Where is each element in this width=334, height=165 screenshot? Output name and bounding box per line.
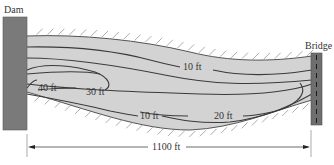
hatch-mark-bottom — [65, 105, 71, 111]
hatch-mark-top — [69, 29, 75, 35]
hatch-mark-bottom — [147, 127, 153, 133]
hatch-mark-bottom — [158, 129, 164, 135]
dam-label: Dam — [4, 4, 24, 15]
hatch-mark-top — [48, 29, 54, 35]
bridge-label: Bridge — [305, 40, 333, 51]
hatch-mark-bottom — [292, 107, 298, 113]
contour-label-40ft: 40 ft — [38, 82, 57, 93]
hatch-mark-top — [253, 53, 259, 59]
hatch-mark-top — [178, 42, 184, 48]
distance-label: 1100 ft — [152, 141, 180, 152]
hatch-mark-bottom — [221, 127, 227, 133]
hatch-mark-bottom — [96, 114, 102, 120]
contour-label-30ft: 30 ft — [86, 86, 105, 97]
hatch-mark-bottom — [189, 131, 195, 137]
hatch-mark-top — [242, 53, 248, 59]
hatch-mark-bottom — [210, 129, 216, 135]
hatch-mark-top — [58, 29, 64, 35]
hatch-mark-top — [135, 35, 141, 41]
hatch-mark-top — [80, 29, 86, 35]
hatch-mark-bottom — [303, 103, 309, 109]
hatch-mark-top — [231, 52, 237, 58]
hatch-mark-bottom — [55, 102, 61, 108]
hatch-mark-top — [37, 29, 43, 35]
hatch-mark-bottom — [200, 130, 206, 136]
hatch-mark-top — [275, 53, 281, 59]
hatch-mark-bottom — [282, 110, 288, 116]
hatch-mark-top — [145, 36, 151, 42]
hatch-mark-bottom — [116, 120, 122, 126]
bridge-structure — [311, 53, 322, 125]
hatch-mark-top — [167, 40, 173, 46]
hatch-mark-bottom — [126, 122, 132, 128]
hatch-mark-bottom — [168, 130, 174, 136]
hatch-mark-top — [188, 44, 194, 50]
contour-label-20ft: 20 ft — [214, 110, 233, 121]
hatch-mark-top — [296, 51, 302, 57]
hatch-mark-bottom — [179, 131, 185, 137]
hatch-mark-bottom — [45, 98, 51, 104]
dam-wall — [3, 17, 27, 130]
hatch-mark-bottom — [75, 108, 81, 114]
hatch-mark-top — [156, 38, 162, 44]
hatch-mark-top — [199, 47, 205, 53]
hatch-mark-top — [264, 53, 270, 59]
hatch-mark-top — [124, 33, 130, 39]
hatch-mark-bottom — [137, 125, 143, 131]
contour-label-10ft-lower: 10 ft — [140, 110, 159, 121]
hatch-mark-top — [91, 30, 97, 36]
arrow-right-icon — [303, 145, 310, 149]
contour-label-10ft-upper: 10 ft — [183, 61, 202, 72]
arrow-left-icon — [28, 145, 35, 149]
hatch-mark-top — [113, 32, 119, 38]
hatch-mark-bottom — [106, 117, 112, 123]
river-depth-diagram: 10 ft 40 ft 30 ft 10 ft 20 ft Dam Bridge… — [0, 0, 334, 165]
hatch-mark-bottom — [262, 116, 268, 122]
hatch-mark-bottom — [242, 122, 248, 128]
hatch-mark-bottom — [272, 113, 278, 119]
hatch-mark-bottom — [252, 120, 258, 126]
hatch-mark-top — [220, 51, 226, 57]
hatch-mark-bottom — [231, 125, 237, 131]
hatch-mark-top — [210, 49, 216, 55]
hatch-mark-top — [286, 52, 292, 58]
hatch-mark-top — [102, 31, 108, 37]
hatch-mark-bottom — [85, 111, 91, 117]
